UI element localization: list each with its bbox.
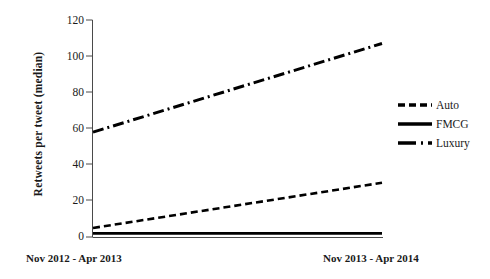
x-tick-label-period-1: Nov 2012 - Apr 2013	[26, 252, 122, 264]
series-line-luxury	[93, 44, 382, 133]
legend-label-auto: Auto	[436, 96, 459, 115]
chart-legend: Auto FMCG Luxury	[398, 96, 490, 153]
legend-item-fmcg: FMCG	[398, 115, 490, 134]
legend-item-luxury: Luxury	[398, 134, 490, 153]
legend-label-fmcg: FMCG	[436, 115, 469, 134]
legend-swatch-fmcg-solid-icon	[398, 122, 432, 126]
legend-item-auto: Auto	[398, 96, 490, 115]
chart-figure: Retweets per tweet (median) 120 100 80 6…	[0, 0, 490, 279]
x-tick-label-period-2: Nov 2013 - Apr 2014	[323, 252, 419, 264]
legend-swatch-auto-dashed-icon	[398, 103, 432, 107]
legend-swatch-luxury-dashdot-icon	[398, 141, 432, 145]
legend-label-luxury: Luxury	[436, 134, 470, 153]
series-line-auto	[93, 183, 382, 228]
